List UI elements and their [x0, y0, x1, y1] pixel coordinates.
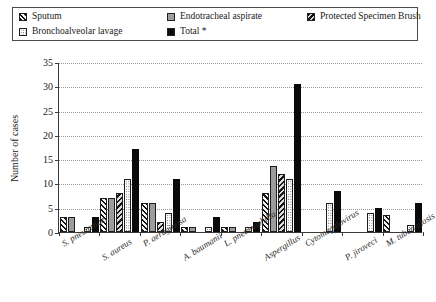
bar — [375, 208, 382, 232]
bar — [132, 149, 139, 232]
legend-item-total: Total * — [167, 24, 307, 40]
legend-label-endotracheal-aspirate: Endotracheal aspirate — [180, 12, 262, 22]
y-tick-label: 15 — [43, 155, 53, 165]
bar — [270, 166, 277, 232]
bar — [149, 203, 156, 232]
chart-legend: Sputum Endotracheal aspirate Protected S… — [12, 7, 418, 41]
y-tick-label: 25 — [43, 107, 53, 117]
bar-group — [342, 63, 382, 232]
hatch-swatch-icon — [19, 13, 27, 21]
bar — [189, 227, 196, 232]
legend-item-protected-specimen-brush: Protected Specimen Brush — [307, 9, 417, 25]
y-tick-label: 5 — [48, 204, 53, 214]
bar — [181, 227, 188, 232]
bar-group — [221, 63, 261, 232]
bar — [124, 179, 131, 232]
gray-swatch-icon — [167, 13, 175, 21]
x-axis-labels: S. pneumniaeS. aureusP. aeruginosaA. bau… — [0, 238, 436, 302]
x-tick-mark — [180, 232, 181, 236]
bar — [141, 203, 148, 232]
bar — [60, 217, 67, 232]
y-tick-label: 35 — [43, 58, 53, 68]
bar — [278, 174, 285, 232]
y-axis-title: Number of cases — [8, 63, 22, 233]
legend-label-bronchoalveolar-lavage: Bronchoalveolar lavage — [32, 27, 122, 37]
legend-row-2: Bronchoalveolar lavage Total * — [13, 24, 417, 40]
x-axis-label: P. jiroveci — [343, 235, 379, 263]
x-axis-label: A. baumanii — [181, 231, 224, 263]
bar-group — [261, 63, 301, 232]
bar-group — [180, 63, 220, 232]
x-tick-mark — [140, 232, 141, 236]
bar-group — [302, 63, 342, 232]
bar — [116, 193, 123, 232]
y-tick-label: 10 — [43, 179, 53, 189]
bar-group — [99, 63, 139, 232]
bar — [221, 227, 228, 232]
x-axis-label: Aspergillus — [262, 232, 302, 262]
chart-plot-area: 05101520253035 — [58, 63, 422, 233]
legend-row-1: Sputum Endotracheal aspirate Protected S… — [13, 9, 417, 25]
bar — [213, 217, 220, 232]
bar — [383, 215, 390, 232]
chart-plot-frame: 05101520253035 — [58, 63, 422, 233]
x-axis-label: S. aureus — [100, 236, 133, 262]
bar-group — [59, 63, 99, 232]
x-tick-mark — [261, 232, 262, 236]
x-tick-mark — [59, 232, 60, 236]
legend-label-total: Total * — [180, 27, 207, 37]
y-axis-title-text: Number of cases — [10, 114, 21, 181]
legend-item-bronchoalveolar-lavage: Bronchoalveolar lavage — [19, 24, 167, 40]
y-tick-label: 0 — [48, 228, 53, 238]
x-tick-mark — [383, 232, 384, 236]
legend-item-sputum: Sputum — [19, 9, 167, 25]
bar — [286, 179, 293, 232]
bar-group — [140, 63, 180, 232]
bar — [108, 198, 115, 232]
bar — [367, 213, 374, 232]
bar-group — [383, 63, 423, 232]
bar — [68, 217, 75, 232]
bar — [205, 227, 212, 232]
legend-label-sputum: Sputum — [32, 12, 62, 22]
x-tick-mark — [302, 232, 303, 236]
legend-item-endotracheal-aspirate: Endotracheal aspirate — [167, 9, 307, 25]
y-tick-label: 30 — [43, 82, 53, 92]
legend-label-protected-specimen-brush: Protected Specimen Brush — [320, 12, 421, 22]
x-tick-mark — [423, 232, 424, 236]
black-swatch-icon — [167, 28, 175, 36]
dotted-swatch-icon — [19, 28, 27, 36]
bar — [294, 84, 301, 232]
y-tick-label: 20 — [43, 131, 53, 141]
back-hatch-swatch-icon — [307, 13, 315, 21]
x-tick-mark — [99, 232, 100, 236]
x-tick-mark — [342, 232, 343, 236]
